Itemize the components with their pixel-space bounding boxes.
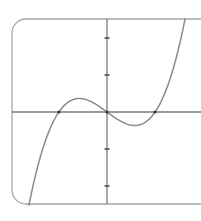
root-point — [154, 110, 157, 113]
root-point — [57, 110, 60, 113]
cubic-function-graph — [0, 0, 201, 221]
root-point — [105, 110, 108, 113]
